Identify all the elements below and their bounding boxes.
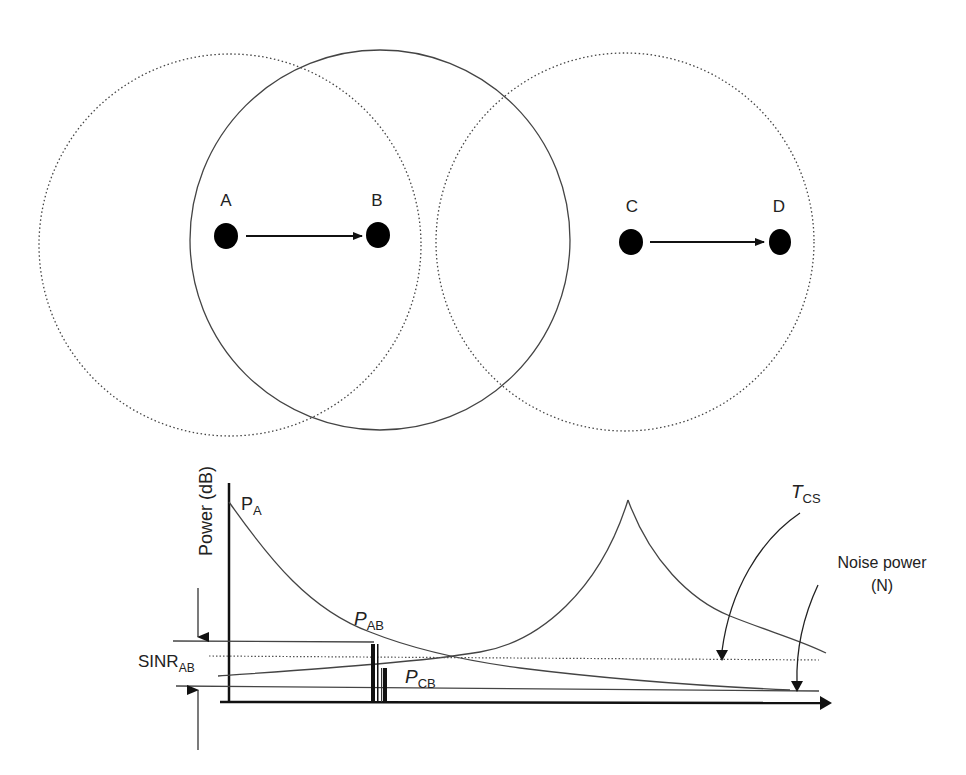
noise-pointer-arrow bbox=[797, 585, 818, 683]
power-plot: Power (dB) PA PAB PCB SINRAB TCS Noise p… bbox=[138, 466, 927, 750]
network-diagram: A B C D bbox=[39, 50, 814, 436]
pab-bar-thin bbox=[377, 644, 379, 702]
node-label-d: D bbox=[773, 197, 785, 216]
pa-decay-curve bbox=[229, 502, 790, 690]
pcb-bar-thin bbox=[381, 668, 382, 702]
tcs-label: TCS bbox=[791, 481, 821, 506]
tcs-threshold-dotted-line bbox=[209, 656, 819, 660]
pc-peak-curve-right bbox=[628, 500, 826, 653]
noise-power-label: Noise power bbox=[838, 554, 928, 571]
tcs-pointer-arrow bbox=[722, 513, 800, 651]
x-axis bbox=[220, 702, 822, 703]
node-c bbox=[619, 229, 643, 255]
node-b bbox=[366, 222, 390, 248]
y-axis-label: Power (dB) bbox=[196, 466, 216, 556]
sinr-label: SINRAB bbox=[138, 652, 195, 675]
pab-bar bbox=[371, 644, 375, 702]
sinr-diagram: A B C D Power (dB) bbox=[0, 0, 966, 775]
x-axis-arrowhead-icon bbox=[820, 696, 832, 710]
node-label-b: B bbox=[371, 191, 382, 210]
node-a bbox=[214, 223, 238, 249]
node-label-c: C bbox=[626, 197, 638, 216]
pab-label: PAB bbox=[354, 608, 384, 633]
pab-level-line bbox=[173, 641, 374, 642]
pa-label: PA bbox=[241, 494, 262, 518]
noise-power-symbol: (N) bbox=[871, 577, 893, 594]
node-d bbox=[769, 229, 791, 255]
node-label-a: A bbox=[220, 191, 232, 210]
pcb-bar bbox=[383, 668, 387, 702]
